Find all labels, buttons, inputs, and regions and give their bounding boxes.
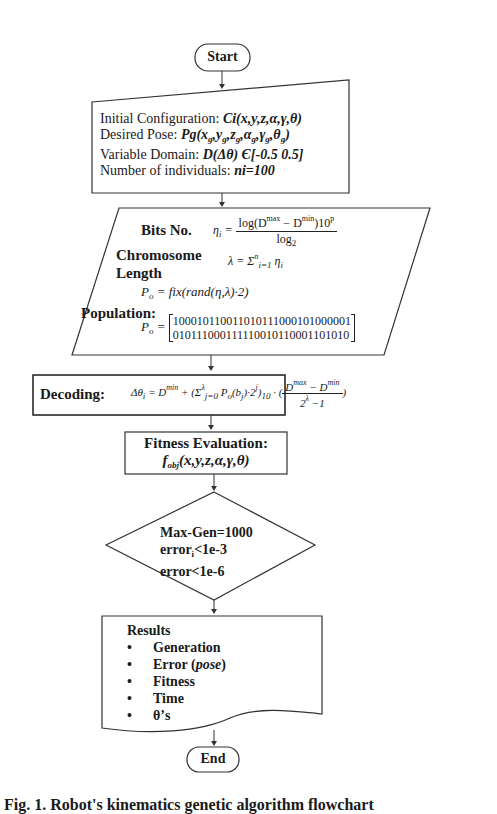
variable-domain-value: D(Δθ) Є[-0.5 0.5] xyxy=(203,147,304,162)
number-of-individuals-line: Number of individuals: ni=100 xyxy=(100,163,303,179)
initial-configuration-value: Ci(x,y,z,α,γ,θ) xyxy=(223,111,302,126)
matrix-row: 010111000111110010110001101010 xyxy=(173,328,351,342)
population-matrix-equation: Po = 100010110011010111000101000001 0101… xyxy=(141,314,355,342)
bits-no-label: Bits No. xyxy=(141,222,192,239)
error-condition: error<1e-6 xyxy=(160,563,253,580)
lambda-equation: λ = Σni=1 ηi xyxy=(228,252,283,270)
number-of-individuals-label: Number of individuals: xyxy=(100,163,234,178)
decoding-fraction: Dmax − Dmin2λ −1 xyxy=(282,378,342,409)
fitness-title: Fitness Evaluation: xyxy=(125,435,287,452)
chromosome-length-label: Chromosome Length xyxy=(116,246,202,282)
population-matrix: 100010110011010111000101000001 010111000… xyxy=(169,314,355,342)
results-item-fitness: •Fitness xyxy=(127,673,226,690)
decoding-equation: Δθi = Dmin + (Σλj=0 Po(bj)·2j)10 · (Dmax… xyxy=(131,378,346,409)
results-item-thetas: •θ’s xyxy=(127,707,226,724)
variable-domain-label: Variable Domain: xyxy=(100,147,203,162)
bits-equation: ηi = log(Dmax − Dmin)10p log2 xyxy=(213,214,337,248)
population-generation-equation: Po = fix(rand(η,λ)·2) xyxy=(141,284,249,301)
results-item-error: •Error (pose) xyxy=(127,656,226,673)
results-item-time: •Time xyxy=(127,690,226,707)
initial-configuration-label: Initial Configuration: xyxy=(100,111,223,126)
desired-pose-label: Desired Pose: xyxy=(100,127,181,142)
config-block: Initial Configuration: Ci(x,y,z,α,γ,θ) D… xyxy=(100,111,303,179)
desired-pose-line: Desired Pose: Pg(xg,yg,zg,αg,γg,θg) xyxy=(100,127,303,147)
variable-domain-line: Variable Domain: D(Δθ) Є[-0.5 0.5] xyxy=(100,147,303,163)
initial-configuration-line: Initial Configuration: Ci(x,y,z,α,γ,θ) xyxy=(100,111,303,127)
fitness-function: fobj(x,y,z,α,γ,θ) xyxy=(125,452,287,470)
results-block: Results •Generation •Error (pose) •Fitne… xyxy=(127,622,226,724)
fitness-block: Fitness Evaluation: fobj(x,y,z,α,γ,θ) xyxy=(125,435,287,470)
start-label: Start xyxy=(195,49,250,65)
bits-fraction: log(Dmax − Dmin)10p log2 xyxy=(236,214,338,248)
decoding-label: Decoding: xyxy=(40,386,105,403)
number-of-individuals-value: ni=100 xyxy=(234,163,275,178)
desired-pose-value: Pg(xg,yg,zg,αg,γg,θg) xyxy=(181,127,290,142)
end-label: End xyxy=(187,751,239,767)
chromosome-label-line-1: Chromosome xyxy=(116,246,202,264)
decision-block: Max-Gen=1000 errori<1e-3 error<1e-6 xyxy=(160,524,253,580)
matrix-row: 100010110011010111000101000001 xyxy=(173,314,351,328)
results-title: Results xyxy=(127,622,226,639)
chromosome-label-line-2: Length xyxy=(116,264,202,282)
error-i-condition: errori<1e-3 xyxy=(160,541,253,563)
max-gen-condition: Max-Gen=1000 xyxy=(160,524,253,541)
figure-caption: Fig. 1. Robot's kinematics genetic algor… xyxy=(4,796,374,814)
results-item-generation: •Generation xyxy=(127,639,226,656)
